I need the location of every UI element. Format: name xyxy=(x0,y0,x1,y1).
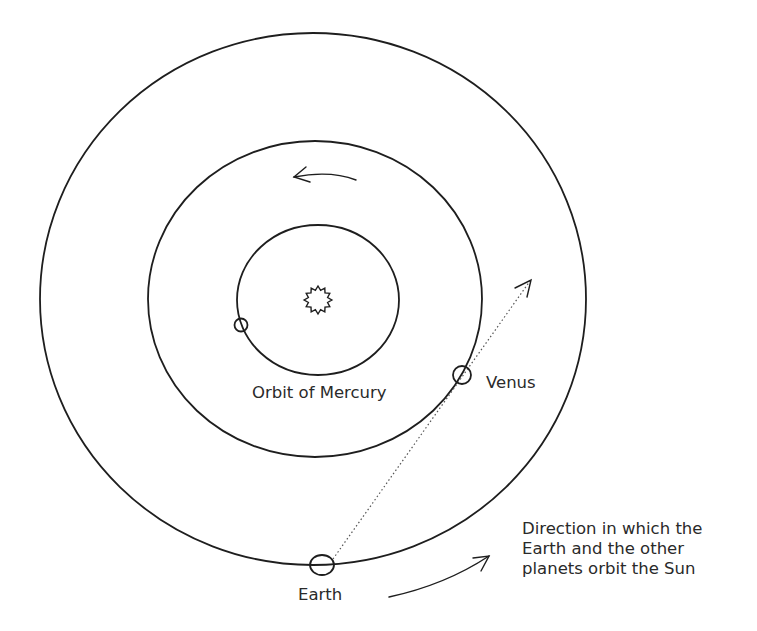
earth-orbit xyxy=(40,33,586,565)
direction-caption: Direction in which the Earth and the oth… xyxy=(522,519,702,578)
mercury-orbit-label: Orbit of Mercury xyxy=(252,383,387,402)
orbit-direction-arrow-top-icon xyxy=(294,167,356,182)
direction-caption-line-2: Earth and the other xyxy=(522,539,684,558)
venus-orbit xyxy=(148,141,482,457)
venus-label: Venus xyxy=(486,373,536,392)
orbit-direction-arrow-bottom-icon xyxy=(389,556,489,597)
line-of-sight-arrowhead-icon xyxy=(515,280,531,297)
solar-system-diagram: Orbit of Mercury Venus Earth Direction i… xyxy=(0,0,757,631)
line-of-sight-dotted xyxy=(333,281,530,559)
sun-icon xyxy=(304,286,332,314)
direction-caption-line-1: Direction in which the xyxy=(522,519,702,538)
direction-caption-line-3: planets orbit the Sun xyxy=(522,559,695,578)
earth-label: Earth xyxy=(298,585,342,604)
mercury-orbit xyxy=(237,225,399,375)
